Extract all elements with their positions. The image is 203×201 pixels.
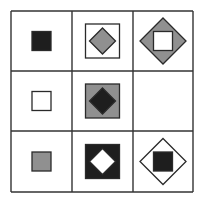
puzzle-cell — [11, 131, 72, 192]
puzzle-cell — [72, 11, 133, 71]
puzzle-cell — [133, 11, 193, 71]
matrix-puzzle — [0, 0, 203, 201]
puzzle-cell — [11, 11, 72, 71]
white-square-small — [32, 92, 51, 111]
puzzle-cell — [133, 131, 193, 192]
black-square-small — [154, 152, 173, 171]
white-square-small — [154, 32, 173, 51]
cell-background — [133, 71, 193, 131]
puzzle-cell — [72, 131, 133, 192]
black-square-small — [32, 32, 51, 51]
cells-layer — [11, 11, 193, 192]
answer-slot-empty[interactable] — [133, 71, 193, 131]
puzzle-cell — [11, 71, 72, 131]
puzzle-cell — [72, 71, 133, 131]
gray-square-small — [32, 152, 51, 171]
